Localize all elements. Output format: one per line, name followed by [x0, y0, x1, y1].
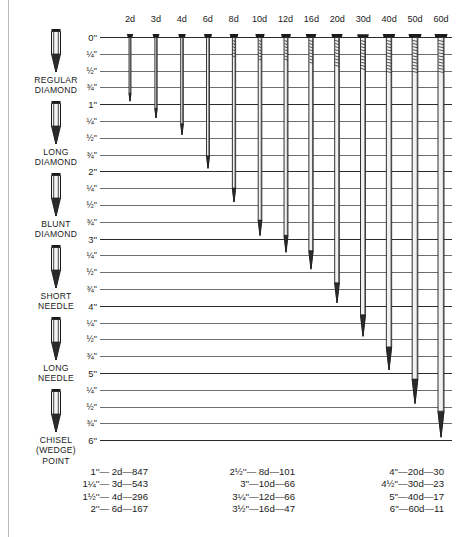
point-type-label-line: DIAMOND: [14, 157, 98, 167]
point-type-label-line: REGULAR: [14, 75, 98, 85]
penny-size-label-4d: 4d: [177, 14, 187, 24]
nail-50d: [407, 34, 424, 418]
gridline-3.75in: [100, 289, 452, 290]
nail-60d: [433, 34, 450, 451]
size-table-row: 2½''— 8d—101: [165, 466, 295, 478]
penny-size-label-16d: 16d: [304, 14, 319, 24]
scale-label-6.00in: 6'': [88, 435, 97, 446]
point-type-label-line: DIAMOND: [14, 85, 98, 95]
point-type-label-line: DIAMOND: [14, 229, 98, 239]
scale-label-0.00in: 0'': [88, 32, 97, 43]
penny-size-label-3d: 3d: [151, 14, 161, 24]
gridline-5.75in: [100, 423, 452, 424]
size-table-row: 1¼''— 3d—543: [24, 478, 148, 490]
point-type-label-line: NEEDLE: [14, 373, 98, 383]
point-type-short-needle: SHORTNEEDLE: [14, 244, 98, 312]
point-type-chisel-wedge: CHISEL(WEDGE)POINT: [14, 388, 98, 466]
nail-4d: [176, 34, 187, 149]
penny-size-label-60d: 60d: [433, 14, 448, 24]
penny-size-label-50d: 50d: [407, 14, 422, 24]
size-table-row: 2''— 6d—167: [24, 503, 148, 515]
point-type-label: LONGDIAMOND: [14, 147, 98, 168]
size-table-row: 4''—20d—30: [312, 466, 444, 478]
nail-12d: [279, 34, 293, 266]
scale-label-2.25in: ¼'': [86, 183, 97, 193]
gridline-3.50in: [100, 272, 452, 273]
penny-size-label-10d: 10d: [252, 14, 267, 24]
gridline-1.75in: [100, 155, 452, 156]
point-type-label-line: SHORT: [14, 291, 98, 301]
point-type-label: SHORTNEEDLE: [14, 291, 98, 312]
size-table-column-3: 4''—20d—304½''—30d—235''—40d—176''—60d—1…: [312, 466, 444, 516]
scale-label-3.50in: ½'': [86, 267, 97, 277]
scale-label-4.25in: ¼'': [86, 318, 97, 328]
nail-10d: [253, 34, 266, 250]
size-table-row: 1½''— 4d—296: [24, 491, 148, 503]
size-table-column-2: 2½''— 8d—1013''—10d—663¼''—12d—663½''—16…: [165, 466, 295, 516]
gridline-5.00in: [100, 373, 452, 374]
short-needle-point-icon: [45, 244, 67, 290]
scale-label-5.50in: ½'': [86, 402, 97, 412]
scale-label-5.75in: ¾'': [86, 418, 97, 428]
point-type-label: REGULARDIAMOND: [14, 75, 98, 96]
nail-2d: [125, 34, 135, 115]
scale-label-1.75in: ¾'': [86, 150, 97, 160]
chisel-wedge-point-icon: [45, 388, 67, 434]
page-left-rule: [8, 0, 9, 537]
size-table-row: 4½''—30d—23: [312, 478, 444, 490]
point-type-regular-diamond: REGULARDIAMOND: [14, 28, 98, 96]
scale-label-0.50in: ½'': [86, 66, 97, 76]
scale-label-4.75in: ¾'': [86, 351, 97, 361]
point-type-label-line: NEEDLE: [14, 301, 98, 311]
point-type-label-line: LONG: [14, 147, 98, 157]
gridline-2.75in: [100, 222, 452, 223]
size-table-column-1: 1''— 2d—8471¼''— 3d—5431½''— 4d—2962''— …: [24, 466, 148, 516]
size-table-row: 3½''—16d—47: [165, 503, 295, 515]
nail-8d: [227, 34, 240, 216]
point-type-label-line: LONG: [14, 363, 98, 373]
gridline-6.00in: [100, 440, 452, 441]
gridline-2.50in: [100, 205, 452, 206]
penny-size-label-2d: 2d: [125, 14, 135, 24]
point-type-label-line: POINT: [14, 456, 98, 466]
penny-size-label-8d: 8d: [229, 14, 239, 24]
gridline-3.00in: [100, 239, 452, 240]
point-type-blunt-diamond: BLUNTDIAMOND: [14, 172, 98, 240]
size-table-row: 6''—60d—11: [312, 503, 444, 515]
nail-16d: [304, 34, 319, 283]
scale-label-4.00in: 4'': [88, 300, 97, 311]
gridline-5.25in: [100, 390, 452, 391]
point-type-column: REGULARDIAMONDLONGDIAMONDBLUNTDIAMONDSHO…: [14, 28, 98, 460]
scale-label-2.75in: ¾'': [86, 217, 97, 227]
gridline-2.00in: [100, 171, 452, 172]
gridline-3.25in: [100, 255, 452, 256]
size-table-row: 5''—40d—17: [312, 491, 444, 503]
nail-3d: [151, 34, 162, 132]
nail-30d: [355, 34, 371, 350]
penny-size-label-6d: 6d: [203, 14, 213, 24]
blunt-diamond-point-icon: [45, 172, 67, 218]
gridline-1.50in: [100, 138, 452, 139]
size-table-row: 3''—10d—66: [165, 478, 295, 490]
nail-length-chart: 2d3d4d6d8d10d12d16d20d30d40d50d60d 0''¼'…: [100, 14, 452, 462]
penny-size-label-12d: 12d: [278, 14, 293, 24]
gridline-4.50in: [100, 339, 452, 340]
point-type-label: BLUNTDIAMOND: [14, 219, 98, 240]
gridline-2.25in: [100, 188, 452, 189]
scale-label-0.75in: ¾'': [86, 82, 97, 92]
scale-label-1.25in: ¼'': [86, 116, 97, 126]
scale-label-3.00in: 3'': [88, 233, 97, 244]
regular-diamond-point-icon: [45, 28, 67, 74]
penny-size-label-30d: 30d: [356, 14, 371, 24]
point-type-long-needle: LONGNEEDLE: [14, 316, 98, 384]
gridline-4.75in: [100, 356, 452, 357]
point-type-long-diamond: LONGDIAMOND: [14, 100, 98, 168]
scale-label-3.25in: ¼'': [86, 250, 97, 260]
point-type-label: LONGNEEDLE: [14, 363, 98, 384]
size-conversion-table: 1''— 2d—8471¼''— 3d—5431½''— 4d—2962''— …: [24, 466, 444, 516]
gridline-4.00in: [100, 306, 452, 307]
nail-40d: [381, 34, 397, 384]
gridline-4.25in: [100, 323, 452, 324]
nail-20d: [330, 34, 345, 317]
scale-label-5.00in: 5'': [88, 368, 97, 379]
